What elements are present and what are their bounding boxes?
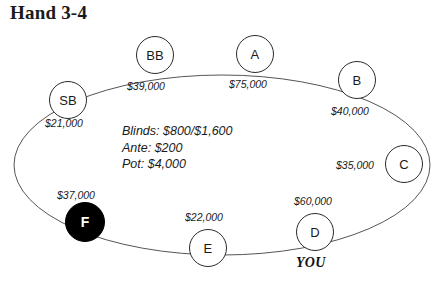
hand-diagram-page: Hand 3-4 SB$21,000BB$39,000A$75,000B$40,… xyxy=(0,0,442,285)
pot-text: Pot: $4,000 xyxy=(122,156,233,173)
seat-bb[interactable]: BB xyxy=(136,36,174,74)
stack-label-b: $40,000 xyxy=(331,106,369,117)
stack-label-a: $75,000 xyxy=(229,79,267,90)
seat-label: A xyxy=(251,48,260,61)
seat-label: D xyxy=(310,226,320,239)
blinds-text: Blinds: $800/$1,600 xyxy=(122,123,233,140)
stack-label-f: $37,000 xyxy=(57,190,95,201)
stack-label-sb: $21,000 xyxy=(45,118,83,129)
stack-label-d: $60,000 xyxy=(294,196,332,207)
seat-d[interactable]: D xyxy=(296,213,334,251)
ante-text: Ante: $200 xyxy=(122,140,233,157)
seat-label: B xyxy=(353,74,362,87)
seat-label: F xyxy=(81,215,90,229)
seat-f[interactable]: F xyxy=(65,202,105,242)
stack-label-c: $35,000 xyxy=(336,160,374,171)
hero-you-label: YOU xyxy=(296,255,326,271)
center-info-block: Blinds: $800/$1,600 Ante: $200 Pot: $4,0… xyxy=(122,123,233,173)
seat-label: C xyxy=(399,158,409,171)
seat-b[interactable]: B xyxy=(338,61,376,99)
seat-label: SB xyxy=(59,94,77,107)
stack-label-bb: $39,000 xyxy=(127,81,165,92)
seat-label: E xyxy=(204,242,213,255)
stack-label-e: $22,000 xyxy=(185,212,223,223)
seat-c[interactable]: C xyxy=(385,145,423,183)
seat-sb[interactable]: SB xyxy=(49,81,87,119)
seat-label: BB xyxy=(146,49,164,62)
seat-e[interactable]: E xyxy=(189,229,227,267)
seat-a[interactable]: A xyxy=(236,35,274,73)
